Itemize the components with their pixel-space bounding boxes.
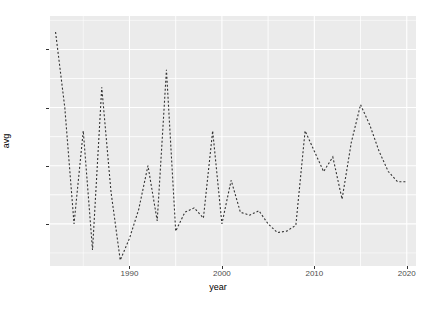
x-tick-mark <box>314 266 315 269</box>
x-tick-label: 2020 <box>398 269 416 278</box>
plot-area <box>50 16 416 266</box>
x-tick-label: 2000 <box>213 269 231 278</box>
y-tick-mark <box>46 166 49 167</box>
x-tick-mark <box>407 266 408 269</box>
x-tick-label: 1990 <box>121 269 139 278</box>
x-tick-mark <box>129 266 130 269</box>
x-axis-title: year <box>0 282 436 292</box>
y-tick-mark <box>46 224 49 225</box>
minor-gridlines <box>50 16 416 266</box>
major-gridlines <box>50 16 416 266</box>
chart-container: 0.340.360.380.40 1990200020102020 year a… <box>0 0 436 310</box>
y-axis-title: avg <box>1 134 11 149</box>
data-line-avg <box>56 32 407 260</box>
x-tick-label: 2010 <box>305 269 323 278</box>
y-tick-mark <box>46 49 49 50</box>
x-tick-mark <box>222 266 223 269</box>
y-tick-mark <box>46 108 49 109</box>
plot-panel <box>50 16 416 266</box>
